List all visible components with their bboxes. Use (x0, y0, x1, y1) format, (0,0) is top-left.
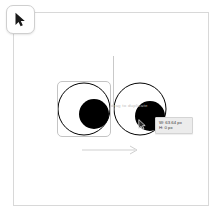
shapes-layer (0, 0, 223, 219)
selection-bounding-box[interactable] (57, 81, 111, 137)
measurement-height-label: H: 0 px (159, 125, 189, 130)
cursor-arrow-icon (14, 12, 27, 27)
app-root: drag to duplicate W: 63.64 px H: 0 px (0, 0, 223, 219)
pointer-tool-button[interactable] (6, 5, 35, 34)
canvas-hint-text: drag to duplicate (111, 103, 148, 109)
measurement-tooltip: W: 63.64 px H: 0 px (155, 117, 193, 134)
mouse-cursor-arrow-icon (138, 119, 146, 130)
distance-arrow-right-icon (82, 144, 140, 156)
